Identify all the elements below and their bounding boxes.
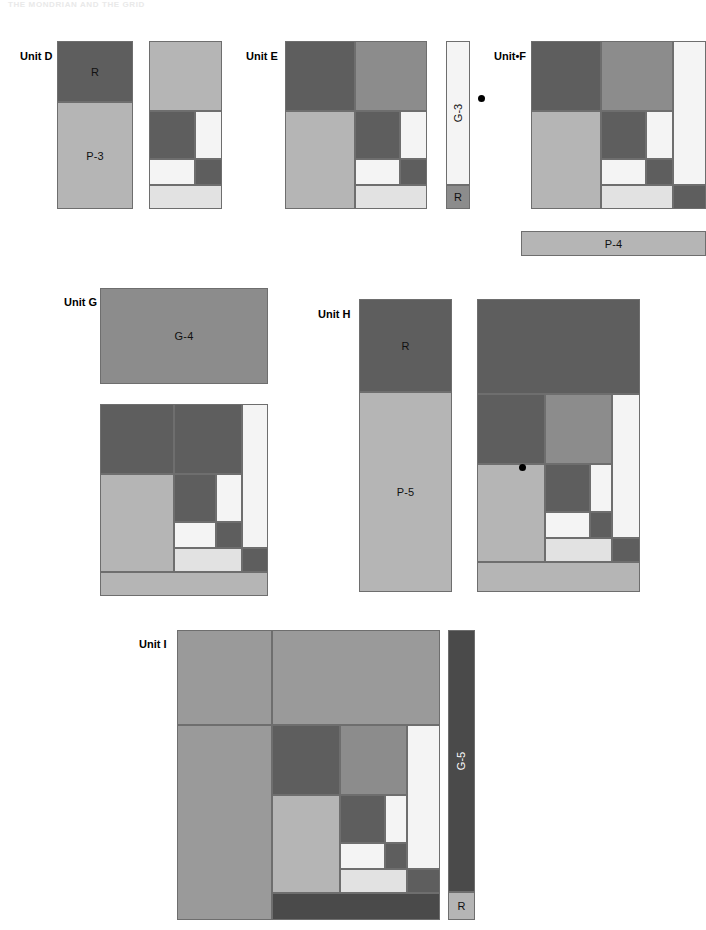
e-main-region-cell-7 bbox=[355, 185, 427, 209]
f-main-region-cell-2 bbox=[673, 41, 706, 185]
i-main-region-cell-8 bbox=[385, 795, 407, 843]
unit-caption-unit-g: Unit G bbox=[64, 296, 97, 308]
region-label-p-5: P-5 bbox=[360, 393, 451, 591]
i-main-region-cell-6 bbox=[272, 795, 340, 893]
d-right-region-cell-2 bbox=[195, 111, 222, 159]
h-main-region-cell-10 bbox=[612, 538, 640, 562]
f-p4-region-p-4: P-4 bbox=[521, 231, 706, 256]
h-left-region-p-5: P-5 bbox=[359, 392, 452, 592]
panel-e-bar: G-3R bbox=[446, 41, 470, 209]
i-main-region-cell-4 bbox=[340, 725, 407, 795]
f-main-region-cell-3 bbox=[531, 111, 601, 209]
unit-caption-unit-d: Unit D bbox=[20, 50, 52, 62]
f-main-region-cell-7 bbox=[646, 159, 673, 185]
g-main-region-cell-10 bbox=[100, 572, 268, 596]
marker-dot-unit-h-1 bbox=[519, 464, 526, 471]
i-main-region-cell-0 bbox=[177, 630, 272, 725]
g-main-region-cell-3 bbox=[100, 474, 174, 572]
g-top-region-g-4: G-4 bbox=[100, 288, 268, 384]
e-main-region-cell-0 bbox=[285, 41, 355, 111]
i-main-region-cell-10 bbox=[385, 843, 407, 869]
d-right-region-cell-1 bbox=[149, 111, 195, 159]
region-label-g-4: G-4 bbox=[101, 289, 267, 383]
h-main-region-cell-8 bbox=[590, 512, 612, 538]
e-main-region-cell-1 bbox=[355, 41, 427, 111]
region-label-g-5: G-5 bbox=[449, 631, 474, 891]
i-main-region-cell-7 bbox=[340, 795, 385, 843]
panel-g-main bbox=[100, 404, 268, 596]
panel-g-top: G-4 bbox=[100, 288, 268, 384]
h-main-region-cell-11 bbox=[477, 562, 640, 592]
h-main-region-cell-3 bbox=[612, 394, 640, 538]
h-main-region-cell-0 bbox=[477, 299, 640, 394]
f-main-region-cell-1 bbox=[601, 41, 673, 111]
f-main-region-cell-5 bbox=[646, 111, 673, 159]
g-main-region-cell-2 bbox=[242, 404, 268, 548]
region-label-r: R bbox=[58, 42, 132, 101]
region-label-g-3: G-3 bbox=[447, 42, 469, 184]
g-main-region-cell-8 bbox=[174, 548, 242, 572]
d-right-region-cell-5 bbox=[149, 185, 222, 209]
unit-caption-unit-e: Unit E bbox=[246, 50, 278, 62]
d-right-region-cell-3 bbox=[149, 159, 195, 185]
page-header-text: THE MONDRIAN AND THE GRID bbox=[8, 0, 145, 9]
e-bar-region-r: R bbox=[446, 185, 470, 209]
i-main-region-cell-9 bbox=[340, 843, 385, 869]
g-main-region-cell-6 bbox=[174, 522, 216, 548]
e-main-region-cell-2 bbox=[285, 111, 355, 209]
d-left-region-r: R bbox=[57, 41, 133, 102]
g-main-region-cell-0 bbox=[100, 404, 174, 474]
panel-h-left: RP-5 bbox=[359, 299, 452, 592]
i-main-region-cell-1 bbox=[272, 630, 440, 725]
g-main-region-cell-1 bbox=[174, 404, 242, 474]
marker-dot-unit-e-1 bbox=[478, 95, 485, 102]
unit-caption-unit-f: Unit•F bbox=[494, 50, 526, 62]
panel-d-left: RP-3 bbox=[57, 41, 133, 209]
region-label-p-4: P-4 bbox=[522, 232, 705, 255]
panel-i-bar: G-5R bbox=[448, 630, 475, 920]
g-main-region-cell-9 bbox=[242, 548, 268, 572]
region-label-p-3: P-3 bbox=[58, 103, 132, 208]
h-left-region-r: R bbox=[359, 299, 452, 392]
f-main-region-cell-0 bbox=[531, 41, 601, 111]
i-bar-region-g-5: G-5 bbox=[448, 630, 475, 892]
d-right-region-cell-0 bbox=[149, 41, 222, 111]
g-main-region-cell-4 bbox=[174, 474, 216, 522]
h-main-region-cell-5 bbox=[545, 464, 590, 512]
h-main-region-cell-9 bbox=[545, 538, 612, 562]
e-main-region-cell-6 bbox=[400, 159, 427, 185]
panel-f-main bbox=[531, 41, 706, 209]
i-main-region-cell-2 bbox=[177, 725, 272, 920]
panel-d-right bbox=[149, 41, 222, 209]
e-bar-region-g-3: G-3 bbox=[446, 41, 470, 185]
f-main-region-cell-6 bbox=[601, 159, 646, 185]
i-main-region-cell-13 bbox=[272, 893, 440, 920]
f-main-region-cell-9 bbox=[673, 185, 706, 209]
i-main-region-cell-11 bbox=[340, 869, 407, 893]
i-main-region-cell-5 bbox=[407, 725, 440, 869]
panel-h-main bbox=[477, 299, 640, 592]
f-main-region-cell-4 bbox=[601, 111, 646, 159]
i-main-region-cell-3 bbox=[272, 725, 340, 795]
panel-f-p4: P-4 bbox=[521, 231, 706, 256]
h-main-region-cell-2 bbox=[545, 394, 612, 464]
h-main-region-cell-6 bbox=[590, 464, 612, 512]
e-main-region-cell-5 bbox=[355, 159, 400, 185]
region-label-r: R bbox=[360, 300, 451, 391]
region-label-r: R bbox=[447, 186, 469, 208]
i-main-region-cell-12 bbox=[407, 869, 440, 893]
f-main-region-cell-8 bbox=[601, 185, 673, 209]
g-main-region-cell-5 bbox=[216, 474, 242, 522]
panel-i-main bbox=[177, 630, 440, 920]
d-right-region-cell-4 bbox=[195, 159, 222, 185]
e-main-region-cell-3 bbox=[355, 111, 400, 159]
panel-e-main bbox=[285, 41, 427, 209]
e-main-region-cell-4 bbox=[400, 111, 427, 159]
unit-caption-unit-h: Unit H bbox=[318, 308, 350, 320]
g-main-region-cell-7 bbox=[216, 522, 242, 548]
i-bar-region-r: R bbox=[448, 892, 475, 920]
h-main-region-cell-7 bbox=[545, 512, 590, 538]
region-label-r: R bbox=[449, 893, 474, 919]
unit-caption-unit-i: Unit I bbox=[139, 638, 167, 650]
